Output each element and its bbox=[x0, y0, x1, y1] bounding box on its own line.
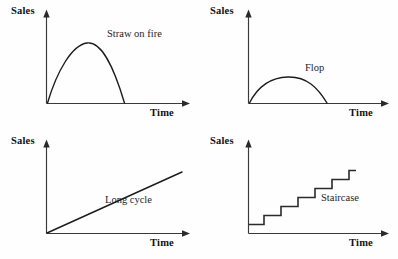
product-life-cycle-figure: Sales Time Straw on fire Sales Time Flop bbox=[0, 0, 398, 259]
y-axis-label: Sales bbox=[210, 6, 234, 17]
x-axis-label: Time bbox=[349, 238, 373, 249]
series-annotation-staircase: Staircase bbox=[321, 193, 359, 204]
y-axis-arrow-icon bbox=[43, 10, 49, 18]
series-annotation-long-cycle: Long cycle bbox=[105, 195, 152, 206]
y-axis-label: Sales bbox=[210, 136, 234, 147]
y-axis-label: Sales bbox=[11, 6, 35, 17]
flop-curve bbox=[250, 77, 328, 103]
series-annotation-straw-on-fire: Straw on fire bbox=[107, 29, 162, 40]
chart-panel-long-cycle: Sales Time Long cycle bbox=[0, 130, 199, 259]
x-axis-arrow-icon bbox=[381, 230, 389, 236]
y-axis-label: Sales bbox=[11, 136, 35, 147]
x-axis-arrow-icon bbox=[381, 100, 389, 106]
y-axis-arrow-icon bbox=[245, 140, 251, 148]
chart-panel-straw-on-fire: Sales Time Straw on fire bbox=[0, 0, 199, 129]
chart-panel-staircase: Sales Time Staircase bbox=[199, 130, 398, 259]
series-annotation-flop: Flop bbox=[305, 63, 324, 74]
x-axis-arrow-icon bbox=[182, 100, 190, 106]
x-axis-arrow-icon bbox=[182, 230, 190, 236]
straw-on-fire-curve bbox=[48, 43, 125, 103]
y-axis-arrow-icon bbox=[43, 140, 49, 148]
x-axis-label: Time bbox=[150, 108, 174, 119]
x-axis-label: Time bbox=[349, 108, 373, 119]
x-axis-label: Time bbox=[150, 238, 174, 249]
chart-panel-flop: Sales Time Flop bbox=[199, 0, 398, 129]
y-axis-arrow-icon bbox=[245, 10, 251, 18]
